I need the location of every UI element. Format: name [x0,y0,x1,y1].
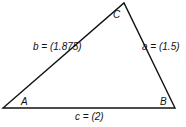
side-label-b: b = (1.875) [33,42,82,52]
triangle-outline [3,3,175,108]
triangle-shape [0,0,186,127]
side-label-c: c = (2) [75,112,104,122]
vertex-label-a: A [21,97,28,107]
side-label-a: a = (1.5) [142,42,180,52]
triangle-diagram: C A B b = (1.875) a = (1.5) c = (2) [0,0,186,127]
vertex-label-b: B [160,97,167,107]
vertex-label-c: C [113,10,120,20]
